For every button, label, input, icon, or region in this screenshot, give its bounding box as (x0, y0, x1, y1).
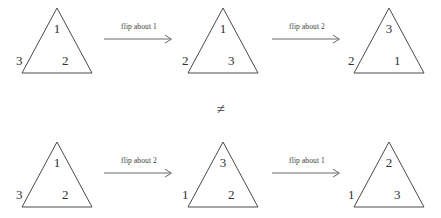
triangle-vertex-label-right: 1 (394, 54, 401, 67)
triangle-top-2: 1 2 3 (173, 3, 273, 83)
triangle-vertex-label-left: 2 (348, 54, 355, 67)
triangle-bottom-1: 1 3 2 (7, 137, 107, 217)
triangle-outline-icon (339, 3, 439, 83)
triangle-vertex-label-apex: 3 (220, 156, 227, 169)
right-arrow-icon (103, 167, 175, 179)
triangle-flip-diagram: 1 3 2 flip about 1 1 2 3 flip about 2 (0, 0, 441, 218)
triangle-outline-icon (173, 137, 273, 217)
triangle-vertex-label-left: 3 (16, 54, 23, 67)
right-arrow-icon (103, 33, 175, 45)
triangle-vertex-label-apex: 2 (386, 156, 393, 169)
triangle-vertex-label-apex: 1 (54, 22, 61, 35)
transition-arrow-top-1: flip about 1 (103, 22, 175, 48)
arrow-label: flip about 1 (289, 156, 325, 165)
transition-arrow-bottom-2: flip about 1 (271, 156, 343, 182)
triangle-vertex-label-apex: 3 (386, 22, 393, 35)
bottom-sequence-row: 1 3 2 flip about 2 3 1 2 flip about 1 (0, 109, 441, 218)
triangle-vertex-label-left: 1 (182, 188, 189, 201)
triangle-outline-icon (339, 137, 439, 217)
triangle-outline-icon (7, 3, 107, 83)
triangle-top-3: 3 2 1 (339, 3, 439, 83)
right-arrow-icon (271, 33, 343, 45)
transition-arrow-top-2: flip about 2 (271, 22, 343, 48)
triangle-vertex-label-right: 2 (62, 54, 69, 67)
triangle-outline-icon (7, 137, 107, 217)
triangle-outline-icon (173, 3, 273, 83)
arrow-label: flip about 1 (121, 22, 157, 31)
transition-arrow-bottom-1: flip about 2 (103, 156, 175, 182)
triangle-vertex-label-right: 3 (228, 54, 235, 67)
triangle-vertex-label-right: 3 (394, 188, 401, 201)
top-sequence-row: 1 3 2 flip about 1 1 2 3 flip about 2 (0, 0, 441, 109)
right-arrow-icon (271, 167, 343, 179)
triangle-vertex-label-left: 3 (16, 188, 23, 201)
triangle-vertex-label-left: 1 (348, 188, 355, 201)
triangle-vertex-label-right: 2 (62, 188, 69, 201)
arrow-label: flip about 2 (289, 22, 325, 31)
triangle-bottom-2: 3 1 2 (173, 137, 273, 217)
triangle-top-1: 1 3 2 (7, 3, 107, 83)
triangle-vertex-label-apex: 1 (220, 22, 227, 35)
triangle-bottom-3: 2 1 3 (339, 137, 439, 217)
triangle-vertex-label-apex: 1 (54, 156, 61, 169)
triangle-vertex-label-left: 2 (182, 54, 189, 67)
triangle-vertex-label-right: 2 (228, 188, 235, 201)
arrow-label: flip about 2 (121, 156, 157, 165)
